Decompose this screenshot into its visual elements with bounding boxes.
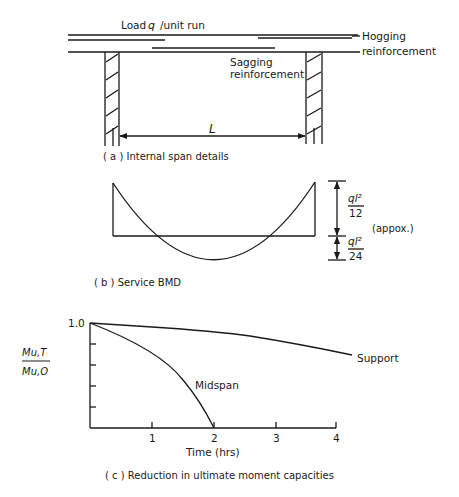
midspan-curve [90, 323, 214, 428]
x-tick-label-4: 4 [333, 432, 340, 444]
y-top-tick-label: 1.0 [68, 317, 85, 329]
y-axis-label: Mu,T Mu,O [22, 347, 50, 377]
hogging-moment-num: ql² [348, 192, 363, 204]
span-label: L [209, 122, 216, 136]
hogging-label-line1: Hogging [362, 30, 406, 42]
hogging-moment-den: 12 [349, 207, 362, 219]
load-label-prefix: Load [121, 19, 146, 31]
panel-b-bmd [113, 181, 364, 260]
panel-c-chart [90, 323, 352, 428]
approx-label: (appox.) [372, 223, 414, 234]
left-column [105, 52, 119, 146]
sagging-moment-num: ql² [348, 235, 363, 247]
load-symbol: q [148, 19, 155, 32]
right-column [306, 52, 322, 144]
midspan-series-label: Midspan [195, 379, 239, 391]
y-label-numerator: Mu,T [22, 347, 47, 358]
sagging-moment-den: 24 [349, 250, 363, 262]
support-series-label: Support [357, 352, 399, 364]
panel-b-caption: ( b ) Service BMD [94, 277, 181, 288]
bmd-parabola [113, 182, 315, 260]
hogging-label-line2: reinforcement [362, 45, 436, 57]
figure-canvas: Load q /unit run Hogging reinforcement S… [0, 0, 459, 497]
panel-c-caption: ( c ) Reduction in ultimate moment capac… [105, 470, 334, 481]
x-tick-label-2: 2 [211, 432, 218, 444]
x-tick-label-1: 1 [149, 432, 156, 444]
sagging-label-line2: reinforcement [230, 68, 304, 80]
support-curve [90, 323, 352, 355]
load-label-suffix: /unit run [160, 19, 205, 31]
y-label-denominator: Mu,O [22, 366, 48, 377]
x-axis-label: Time (hrs) [185, 446, 240, 458]
sagging-label-line1: Sagging [230, 56, 273, 68]
panel-a-caption: ( a ) Internal span details [103, 151, 229, 162]
x-tick-label-3: 3 [273, 432, 280, 444]
